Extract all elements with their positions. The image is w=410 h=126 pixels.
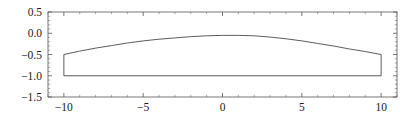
x-tick-label: 10 bbox=[375, 101, 387, 113]
y-tick-label: 0.5 bbox=[28, 6, 43, 18]
tick-marks-group bbox=[48, 12, 397, 97]
data-region-outline bbox=[64, 35, 381, 75]
x-tick-label: −5 bbox=[137, 101, 149, 113]
y-tick-label: −0.5 bbox=[21, 49, 42, 61]
plot-canvas: −10−505100.50.0−0.5−1.0−1.5 bbox=[0, 0, 410, 126]
plot-frame bbox=[48, 12, 397, 97]
x-tick-label: 0 bbox=[220, 101, 226, 113]
y-tick-label: −1.5 bbox=[21, 91, 42, 103]
x-tick-label: 5 bbox=[299, 101, 305, 113]
y-tick-label: 0.0 bbox=[28, 27, 43, 39]
x-tick-label: −10 bbox=[55, 101, 73, 113]
y-tick-label: −1.0 bbox=[21, 70, 42, 82]
chart-figure: −10−505100.50.0−0.5−1.0−1.5 bbox=[0, 0, 410, 126]
